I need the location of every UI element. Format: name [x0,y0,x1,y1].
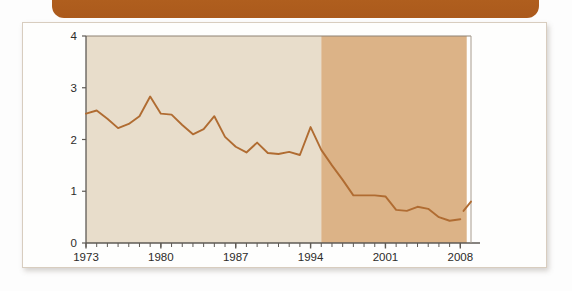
band-historical [86,36,321,243]
chart-card: 01234197319801987199420012008 [22,22,547,268]
screenshot-stage: 01234197319801987199420012008 [0,0,572,291]
top-banner [52,0,539,18]
x-tick-label: 1973 [73,251,99,263]
y-tick-label: 0 [71,237,77,249]
line-chart: 01234197319801987199420012008 [23,23,548,269]
y-axis: 01234 [71,30,86,249]
x-tick-label: 2001 [373,251,399,263]
x-axis: 197319801987199420012008 [73,243,473,263]
y-tick-label: 4 [71,30,78,42]
band-projected [321,36,466,243]
x-tick-label: 1994 [298,251,324,263]
y-tick-label: 2 [71,134,77,146]
x-tick-label: 1980 [148,251,174,263]
y-tick-label: 1 [71,185,77,197]
plot-bands [86,36,467,243]
chart-svg: 01234197319801987199420012008 [23,23,548,269]
y-tick-label: 3 [71,82,77,94]
x-tick-label: 1987 [223,251,249,263]
x-tick-label: 2008 [448,251,474,263]
